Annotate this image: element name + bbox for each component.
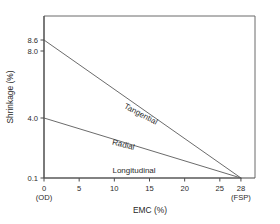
y-axis-title: Shrinkage (%) — [5, 70, 15, 123]
series-label-longitudinal: Longitudinal — [112, 166, 155, 175]
x-tick-label-15: 15 — [145, 184, 153, 193]
x-tick-label-5: 5 — [77, 184, 81, 193]
x-tick-label-28: 28 — [237, 184, 245, 193]
x-tick-label-25: 25 — [216, 184, 224, 193]
y-tick-label-4.0: 4.0 — [27, 114, 38, 123]
x-axis-title: EMC (%) — [133, 205, 167, 215]
x-tick-sublabel-0: (OD) — [36, 193, 53, 202]
y-tick-label-0.1: 0.1 — [27, 174, 38, 183]
x-tick-label-20: 20 — [180, 184, 188, 193]
x-tick-label-10: 10 — [110, 184, 118, 193]
y-tick-label-8.6: 8.6 — [27, 36, 38, 45]
chart-canvas: 0(OD)51015202528(FSP) 8.68.04.00.1 Tange… — [0, 0, 280, 224]
x-tick-label-0: 0 — [42, 184, 46, 193]
shrinkage-emc-chart: 0(OD)51015202528(FSP) 8.68.04.00.1 Tange… — [0, 0, 280, 224]
y-tick-label-8.0: 8.0 — [27, 47, 38, 56]
x-tick-sublabel-28: (FSP) — [231, 193, 251, 202]
